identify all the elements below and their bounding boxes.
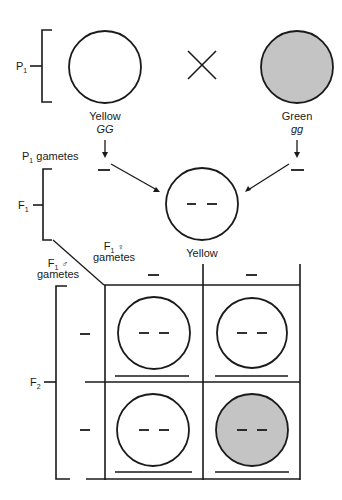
f1-phenotype: Yellow [186, 247, 217, 259]
parent-yellow-pea [69, 31, 141, 103]
punnett-cell-4 [215, 394, 289, 472]
cross-icon [188, 51, 216, 79]
punnett-cell-1 [115, 297, 190, 376]
parent-yellow-genotype: GG [96, 123, 114, 135]
parent-yellow-phenotype: Yellow [89, 110, 120, 122]
arrow-icon [111, 164, 157, 190]
f2-label: F2 [30, 376, 41, 390]
p1-gametes-label: P1 gametes [22, 150, 79, 164]
arrow-icon [248, 164, 289, 190]
f2-bracket: F2 [30, 286, 70, 479]
svg-text:gametes: gametes [93, 251, 136, 263]
parent-green-genotype: gg [291, 123, 304, 135]
parent-green-pea [261, 31, 333, 103]
f1-bracket: F1 [18, 169, 52, 240]
monohybrid-cross-diagram: P1 Yellow GG Green gg P1 gametes F1 Yell… [0, 0, 342, 500]
punnett-cell-2 [215, 298, 288, 376]
svg-text:gametes: gametes [37, 268, 80, 280]
f1-offspring-pea [166, 168, 238, 240]
f1-label: F1 [18, 199, 29, 213]
parent-green-phenotype: Green [282, 110, 313, 122]
punnett-cell-3 [115, 394, 192, 472]
p1-bracket: P1 [16, 30, 52, 102]
p1-label: P1 [16, 60, 27, 74]
